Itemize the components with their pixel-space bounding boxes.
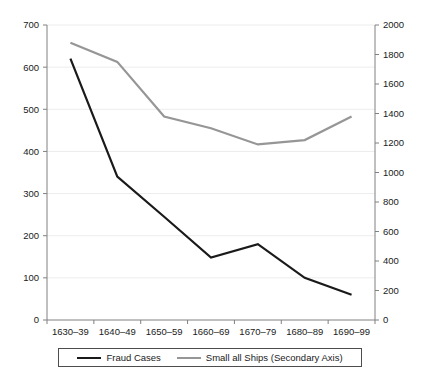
- x-tick-label: 1640–49: [99, 326, 136, 337]
- right-tick-label: 2000: [383, 19, 404, 30]
- right-tick-label: 800: [383, 196, 399, 207]
- right-tick-label: 1600: [383, 78, 404, 89]
- left-axis-ticks: [43, 25, 47, 320]
- chart-axes: [47, 25, 375, 320]
- right-tick-label: 1000: [383, 167, 404, 178]
- legend-label: Small all Ships (Secondary Axis): [206, 352, 343, 363]
- right-tick-label: 1800: [383, 49, 404, 60]
- line-chart-plot: 0100200300400500600700 02004006008001000…: [0, 0, 421, 384]
- left-tick-label: 500: [23, 104, 39, 115]
- x-axis-tick-labels: 1630–391640–491650–591660–691670–791680–…: [52, 326, 370, 337]
- left-tick-label: 300: [23, 188, 39, 199]
- right-tick-label: 600: [383, 226, 399, 237]
- right-tick-label: 1200: [383, 137, 404, 148]
- x-tick-label: 1630–39: [52, 326, 89, 337]
- caption-text: [18, 374, 308, 382]
- left-tick-label: 100: [23, 272, 39, 283]
- legend-line-swatch-icon: [177, 357, 201, 359]
- x-tick-label: 1690–99: [333, 326, 370, 337]
- left-axis-tick-labels: 0100200300400500600700: [23, 19, 39, 325]
- x-tick-label: 1670–79: [239, 326, 276, 337]
- chart-legend: Fraud Cases Small all Ships (Secondary A…: [58, 348, 362, 367]
- right-tick-label: 200: [383, 285, 399, 296]
- x-tick-label: 1680–89: [286, 326, 323, 337]
- right-tick-label: 1400: [383, 108, 404, 119]
- right-axis-tick-labels: 0200400600800100012001400160018002000: [383, 19, 404, 325]
- series-line-small-all-ships: [70, 43, 351, 145]
- data-series: [70, 43, 351, 295]
- legend-line-swatch-icon: [77, 357, 101, 359]
- series-line-fraud-cases: [70, 59, 351, 295]
- legend-label: Fraud Cases: [106, 352, 160, 363]
- legend-item-small-all-ships[interactable]: Small all Ships (Secondary Axis): [177, 352, 343, 363]
- x-tick-label: 1650–59: [146, 326, 183, 337]
- left-tick-label: 400: [23, 146, 39, 157]
- chart-container: 0100200300400500600700 02004006008001000…: [0, 0, 421, 384]
- legend-item-fraud-cases[interactable]: Fraud Cases: [77, 352, 160, 363]
- left-tick-label: 0: [34, 314, 39, 325]
- left-tick-label: 200: [23, 230, 39, 241]
- right-tick-label: 400: [383, 255, 399, 266]
- gridlines: [47, 25, 375, 278]
- left-tick-label: 700: [23, 19, 39, 30]
- x-tick-label: 1660–69: [193, 326, 230, 337]
- x-axis-ticks: [47, 320, 375, 324]
- right-tick-label: 0: [383, 314, 388, 325]
- right-axis-ticks: [375, 25, 379, 320]
- left-tick-label: 600: [23, 62, 39, 73]
